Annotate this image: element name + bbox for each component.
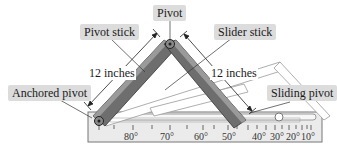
sliding-pivot-joint [275,113,283,121]
scale-label-20: 20° [286,131,300,142]
label-sliding-pivot: Sliding pivot [267,85,337,101]
scale-label-70: 70° [160,131,174,142]
dimension-label-right: 12 inches [210,66,258,80]
scale-label-80: 80° [124,131,138,142]
label-pivot: Pivot [153,5,186,21]
label-anchored-pivot: Anchored pivot [8,85,91,101]
scale-label-30: 30° [270,131,284,142]
anchored-pivot-joint [95,117,104,126]
pivot-joint [166,40,175,49]
scale-label-10: 10° [301,131,315,142]
scale-label-40: 40° [252,131,266,142]
scale-label-50: 50° [222,131,236,142]
label-slider-stick: Slider stick [214,24,276,40]
label-pivot-stick: Pivot stick [80,24,139,40]
dimension-label-left: 12 inches [88,66,136,80]
scale-label-60: 60° [194,131,208,142]
